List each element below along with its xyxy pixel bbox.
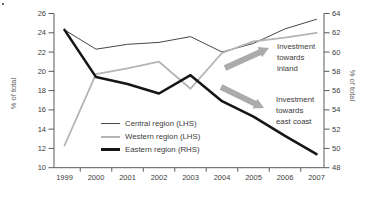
x-axis-tick-label: 2001 (119, 173, 136, 182)
legend-item-eastern: Eastern region (RHS) (101, 143, 200, 156)
annotation-line: Investment (276, 94, 314, 105)
legend-swatch-western (101, 136, 120, 138)
left-axis-tick-label: 20 (38, 67, 46, 76)
x-axis-tick-label: 2006 (277, 173, 294, 182)
left-axis-title: % of total (9, 67, 18, 121)
annotation-line: towards (277, 52, 315, 63)
right-axis-tick-label: 48 (332, 163, 340, 172)
right-axis-tick-label: 52 (332, 125, 340, 134)
scan-artifact-dot (2, 3, 4, 5)
legend: Central region (LHS) Western region (LHS… (101, 117, 200, 156)
right-axis-tick-label: 64 (332, 9, 340, 18)
x-axis-tick-label: 2005 (245, 173, 262, 182)
left-axis-tick-label: 18 (38, 86, 46, 95)
annotation-east-coast: Investment towards east coast (276, 94, 314, 127)
right-axis-tick-label: 62 (332, 28, 340, 37)
right-axis-tick-label: 56 (332, 86, 340, 95)
x-axis-tick-label: 2003 (182, 173, 199, 182)
annotation-line: inland (277, 63, 315, 74)
legend-label-western: Western region (LHS) (125, 132, 200, 141)
left-axis-tick-label: 14 (38, 125, 46, 134)
left-axis-tick-label: 12 (38, 144, 46, 153)
right-axis-tick-label: 60 (332, 48, 340, 57)
left-axis-tick-label: 26 (38, 9, 46, 18)
left-axis-tick-label: 22 (38, 48, 46, 57)
annotation-inland: Investment towards inland (277, 41, 315, 74)
right-axis-tick-label: 58 (332, 67, 340, 76)
left-axis-tick-label: 24 (38, 28, 46, 37)
arrow-east-coast-icon (220, 84, 264, 108)
legend-item-western: Western region (LHS) (101, 130, 200, 143)
figure: 1012141618202224264850525456586062641999… (0, 0, 368, 203)
x-axis-tick-label: 2007 (308, 173, 325, 182)
x-axis-tick-label: 2002 (151, 173, 168, 182)
right-axis-title: % of total (348, 59, 357, 113)
x-axis-tick-label: 1999 (56, 173, 73, 182)
annotation-line: towards (276, 105, 314, 116)
legend-swatch-central (101, 123, 120, 124)
right-axis-tick-label: 50 (332, 144, 340, 153)
left-axis-tick-label: 16 (38, 105, 46, 114)
legend-label-eastern: Eastern region (RHS) (125, 145, 200, 154)
legend-label-central: Central region (LHS) (125, 119, 197, 128)
x-axis-tick-label: 2004 (214, 173, 231, 182)
x-axis-tick-label: 2000 (88, 173, 105, 182)
legend-item-central: Central region (LHS) (101, 117, 200, 130)
right-axis-tick-label: 54 (332, 105, 340, 114)
annotation-line: Investment (277, 41, 315, 52)
left-axis-tick-label: 10 (38, 163, 46, 172)
annotation-line: east coast (276, 116, 314, 127)
legend-swatch-eastern (101, 148, 120, 151)
